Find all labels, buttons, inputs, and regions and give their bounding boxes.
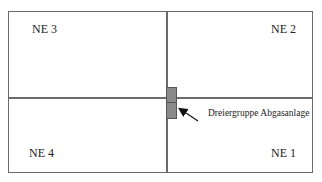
- arrow-icon: [0, 0, 322, 182]
- annotation-label: Dreiergruppe Abgasanlage: [208, 108, 309, 118]
